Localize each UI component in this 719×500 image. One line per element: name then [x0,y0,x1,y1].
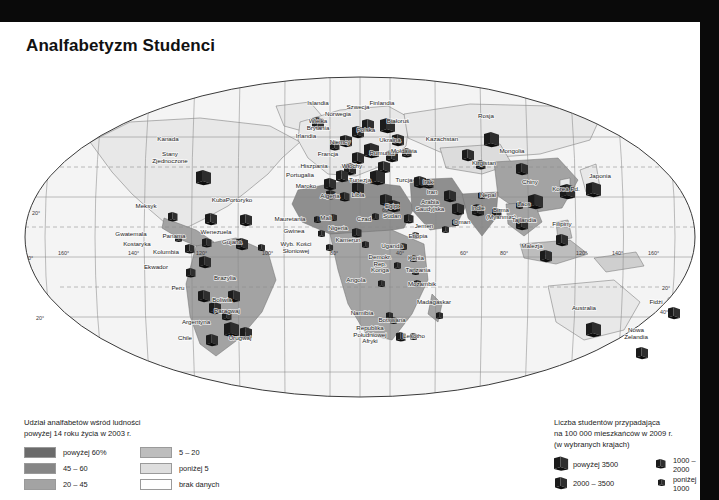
country-label: Mauretania [275,215,307,222]
book-icon [656,459,666,469]
country-label: Mołdawia [391,147,418,154]
country-label: Japonia [589,172,611,179]
country-label: Uganda [381,242,403,249]
legend-book-label: poniżej 1000 [673,475,700,493]
svg-text:20°: 20° [662,285,670,291]
book-icon [658,479,665,486]
country-label: Hiszpania [300,162,328,169]
legend-swatch-label: 5 – 20 [179,448,254,457]
legend-students: Liczba studentów przypadająca na 100 000… [554,418,700,491]
country-label: Kamerun [335,236,361,243]
svg-text:40°: 40° [660,309,668,315]
country-label: Namibia [351,309,374,316]
student-book-symbol [404,214,414,224]
country-label: Korea Pd. [552,185,580,192]
svg-text:140°: 140° [612,250,623,256]
svg-text:120°: 120° [576,250,587,256]
country-label: Iran [427,188,438,195]
country-label: Kolumbia [153,248,179,255]
world-map: 20° 0° 20° 60° 40° 20° 160° 140° 120° 10… [0,22,700,422]
country-label: Oman [454,218,471,225]
legend-illiteracy-heading: Udział analfabetów wśród ludności powyże… [24,418,254,440]
country-label: Kenia [408,254,424,261]
country-label: Mongolia [499,147,525,154]
country-label: Tanzania [406,266,431,273]
country-label: Kostaryka [123,240,151,247]
student-book-symbol [318,230,325,237]
legend-illiteracy: Udział analfabetów wśród ludności powyże… [24,418,254,491]
country-label: Lesotho [403,332,426,339]
country-label: Islandia [307,99,329,106]
legend-students-heading: Liczba studentów przypadająca na 100 000… [554,418,700,450]
country-label: Nigeria [328,224,348,231]
svg-text:40°: 40° [396,250,404,256]
legend-book-label: 1000 – 2000 [673,456,700,474]
country-label: Fidżi [649,298,662,305]
legend-book-label: powyżej 3500 [573,460,651,469]
country-label: Mali [320,214,331,221]
legend-swatch [24,463,56,474]
student-book-symbol [196,170,211,185]
legend-swatch [140,447,172,458]
country-label: Gwatemala [115,230,147,237]
student-book-symbol [378,280,385,287]
student-book-symbol [444,190,456,202]
student-book-symbol [205,213,217,225]
book-icon [554,457,568,471]
student-book-symbol [202,238,212,248]
legend-swatch [24,479,56,490]
legend-swatch-label: poniżej 5 [179,464,254,473]
legend-book-symbol [554,456,570,473]
svg-text:160°: 160° [648,250,659,256]
legend-swatch [24,447,56,458]
country-label: Libia [351,191,365,198]
student-book-symbol [668,307,680,319]
country-label: Etiopia [409,232,428,239]
country-label: Maroko [296,182,317,189]
country-label: Ekwador [144,263,168,270]
student-book-symbol [258,244,265,251]
country-label: NowaZelandia [624,326,648,340]
country-label: Mozambik [408,280,437,287]
svg-text:20°: 20° [36,315,44,321]
country-label: Tajlandia [512,216,537,223]
country-label: Angola [346,276,366,283]
country-label: Rosja [478,112,494,119]
student-book-symbol [198,290,210,302]
student-book-symbol [336,170,348,182]
svg-text:80°: 80° [500,250,508,256]
student-book-symbol [436,312,443,319]
svg-text:120°: 120° [196,250,207,256]
country-label: Botswana [378,316,406,323]
country-label: Wenezuela [201,228,232,235]
country-label: Sudan [383,212,401,219]
student-book-symbol [199,256,211,268]
svg-text:0°: 0° [28,255,33,261]
legend-book-label: 2000 – 3500 [573,479,651,488]
student-book-symbol [186,268,196,278]
map-sheet: Analfabetyzm Studenci [0,22,700,500]
svg-text:20°: 20° [32,210,40,216]
student-book-symbol [394,262,401,269]
student-book-symbol [326,244,333,251]
legend-swatch-label: powyżej 60% [63,448,135,457]
country-label: Malezja [521,242,543,249]
country-label: Chile [178,334,193,341]
country-label: Egipt [385,202,399,209]
country-label: Chiny [522,178,539,185]
student-book-symbol [586,182,601,197]
country-label: Panama [162,232,186,239]
country-label: Irak [423,178,434,185]
country-label: WielkaBrytania [307,117,330,131]
country-label: Laos [517,200,530,207]
country-label: Francja [318,150,339,157]
country-label: Boliwia [212,296,232,303]
country-label: Portugalia [286,171,314,178]
student-book-symbol [516,163,528,175]
country-label: Argentyna [182,318,211,325]
country-label: Polska [357,126,376,133]
country-label: Białoruś [387,117,409,124]
country-label: Turcja [396,176,414,183]
legend-illiteracy-swatches: powyżej 60%5 – 2045 – 60poniżej 520 – 45… [24,446,254,491]
student-book-symbol [442,226,449,233]
